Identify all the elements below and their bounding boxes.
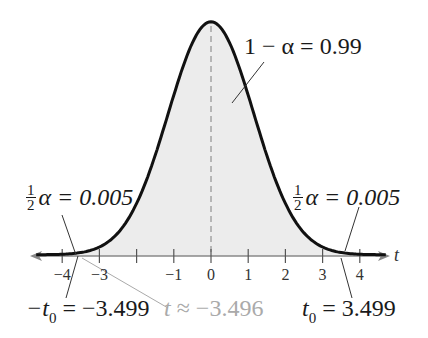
half-fraction: 12 [293,183,303,212]
tick-label: −1 [165,266,182,284]
t-distribution-diagram: −4−3−101234 1 − α = 0.99 12α = 0.005 12α… [0,0,428,338]
half-fraction: 12 [26,183,36,212]
tick-label: 4 [356,266,364,284]
left-tail-area-label: 12α = 0.005 [26,185,133,214]
tick-label: −4 [54,266,71,284]
right-tail-area-label: 12α = 0.005 [293,185,400,214]
distribution-plot [0,0,428,338]
test-statistic-label: t ≈ −3.496 [164,296,263,320]
tick-label: 1 [244,266,252,284]
axis-variable-label: t [394,245,399,266]
tick-label: 3 [319,266,327,284]
right-critical-value-label: t0 = 3.499 [302,296,396,323]
center-area-label: 1 − α = 0.99 [244,34,362,58]
tick-label: −3 [91,266,108,284]
right-critical-leader [341,258,352,298]
tick-label: 0 [207,266,215,284]
left-critical-value-label: −t0 = −3.499 [26,296,149,323]
tick-label: 2 [281,266,289,284]
left-tail-label-leader [62,215,76,255]
